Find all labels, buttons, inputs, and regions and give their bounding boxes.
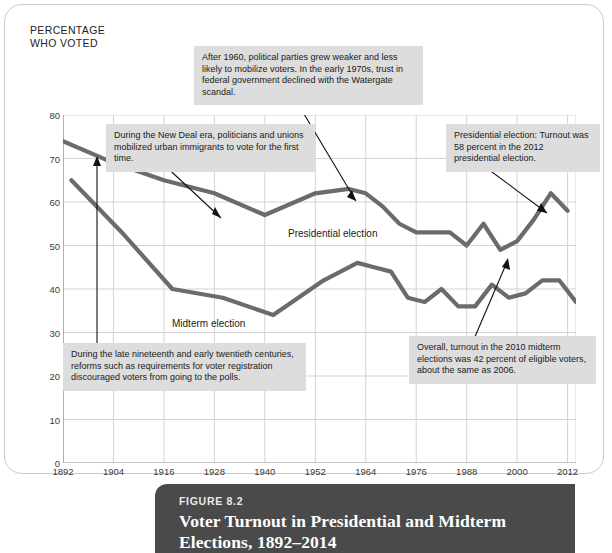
arrow-new-deal-head [212, 207, 221, 218]
y-axis-tick-labels: 01020304050607080 [36, 115, 60, 463]
y-axis-tick-70: 70 [38, 153, 60, 164]
x-axis-tick-1904: 1904 [103, 466, 124, 477]
x-axis-tick-1976: 1976 [406, 466, 427, 477]
y-axis-tick-80: 80 [38, 110, 60, 121]
y-axis-tick-40: 40 [38, 284, 60, 295]
x-axis-tick-1892: 1892 [52, 466, 73, 477]
y-axis-title: PERCENTAGE WHO VOTED [30, 24, 105, 49]
arrow-2010-midterm-head [502, 258, 510, 270]
y-axis-tick-50: 50 [38, 240, 60, 251]
figure-title-line2: Elections, 1892–2014 [179, 532, 575, 553]
x-axis-tick-1916: 1916 [153, 466, 174, 477]
figure-title-line1: Voter Turnout in Presidential and Midter… [179, 511, 575, 532]
y-axis-title-line1: PERCENTAGE [30, 24, 105, 37]
x-axis-tick-2000: 2000 [507, 466, 528, 477]
y-axis-tick-20: 20 [38, 371, 60, 382]
x-axis-tick-2012: 2012 [557, 466, 578, 477]
y-axis-tick-60: 60 [38, 197, 60, 208]
x-axis-tick-1952: 1952 [305, 466, 326, 477]
x-axis-tick-labels: 1892190419161928194019521964197619882000… [63, 466, 576, 482]
y-axis-title-line2: WHO VOTED [30, 37, 105, 50]
annotation-after-1960: After 1960, political parties grew weake… [194, 46, 423, 105]
figure-caption-bar: FIGURE 8.2 Voter Turnout in Presidential… [155, 484, 575, 553]
x-axis-tick-1928: 1928 [204, 466, 225, 477]
x-axis-tick-1964: 1964 [355, 466, 376, 477]
figure-number: FIGURE 8.2 [179, 495, 575, 507]
x-axis-tick-1988: 1988 [456, 466, 477, 477]
figure-title: Voter Turnout in Presidential and Midter… [179, 511, 575, 553]
annotation-reforms: During the late nineteenth and early twe… [63, 343, 306, 391]
y-axis-tick-30: 30 [38, 327, 60, 338]
series-label-midterm: Midterm election [172, 318, 245, 329]
x-axis-tick-1940: 1940 [254, 466, 275, 477]
y-axis-tick-10: 10 [38, 414, 60, 425]
annotation-new-deal: During the New Deal era, politicians and… [106, 124, 315, 172]
annotation-turnout-2012: Presidential election: Turnout was 58 pe… [446, 124, 600, 172]
annotation-midterm-2010: Overall, turnout in the 2010 midterm ele… [409, 336, 596, 384]
series-label-presidential: Presidential election [288, 228, 378, 239]
